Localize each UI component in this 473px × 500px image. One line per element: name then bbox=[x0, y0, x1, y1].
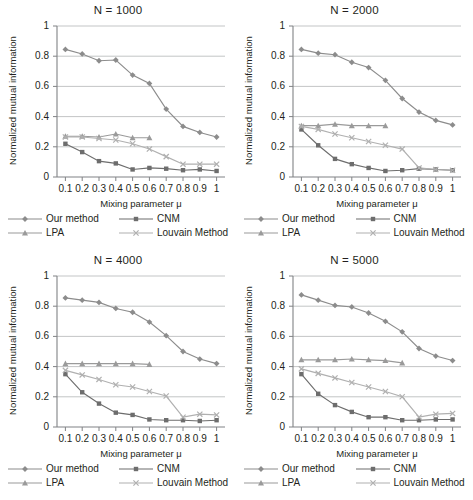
x-tick-label: 0.2 bbox=[75, 183, 89, 194]
series-marker-square bbox=[383, 169, 387, 173]
series-marker-square bbox=[198, 419, 202, 423]
legend-triangle-icon bbox=[8, 228, 42, 238]
legend-label: Louvain Method bbox=[394, 477, 465, 488]
series-marker-square bbox=[450, 417, 454, 421]
chart-legend: Our methodCNMLPALouvain Method bbox=[8, 213, 230, 238]
x-tick-label: 0.1 bbox=[294, 183, 308, 194]
series-marker-diamond bbox=[299, 47, 305, 53]
series-marker-diamond bbox=[197, 130, 203, 136]
series-marker-square bbox=[400, 418, 404, 422]
series-marker-square bbox=[114, 410, 118, 414]
legend-triangle-icon bbox=[244, 228, 278, 238]
y-tick-label: 0.2 bbox=[25, 142, 49, 152]
x-tick-label: 0.4 bbox=[345, 433, 359, 444]
legend-label: LPA bbox=[282, 227, 300, 238]
x-tick-label: 0.5 bbox=[362, 183, 376, 194]
y-tick-label: 0.2 bbox=[261, 392, 285, 402]
legend-item-lpa[interactable]: LPA bbox=[8, 227, 119, 238]
legend-item-lpa[interactable]: LPA bbox=[244, 227, 356, 238]
series-marker-diamond bbox=[214, 361, 220, 367]
x-tick-label: 0.6 bbox=[378, 433, 392, 444]
legend-cross-icon bbox=[356, 228, 390, 238]
y-tick-label: 1 bbox=[261, 21, 285, 31]
x-tick-label: 0.7 bbox=[159, 433, 173, 444]
legend-label: LPA bbox=[46, 477, 64, 488]
legend-item-louvain-method[interactable]: Louvain Method bbox=[356, 227, 468, 238]
legend-item-lpa[interactable]: LPA bbox=[8, 477, 119, 488]
chart-panel-2: N = 4000Normalized mutual information00.… bbox=[0, 250, 236, 500]
series-marker-square bbox=[383, 415, 387, 419]
series-line-louvain-method bbox=[301, 126, 452, 170]
series-marker-square bbox=[366, 415, 370, 419]
series-marker-diamond bbox=[79, 297, 85, 303]
legend-item-our-method[interactable]: Our method bbox=[8, 463, 119, 474]
legend-label: LPA bbox=[282, 477, 300, 488]
legend-item-louvain-method[interactable]: Louvain Method bbox=[119, 477, 230, 488]
series-marker-cross bbox=[164, 154, 169, 159]
series-marker-square bbox=[97, 159, 101, 163]
series-marker-square bbox=[130, 167, 134, 171]
legend-item-louvain-method[interactable]: Louvain Method bbox=[356, 477, 468, 488]
x-tick-label: 0.6 bbox=[142, 183, 156, 194]
legend-label: Our method bbox=[46, 213, 99, 224]
y-tick-label: 0.4 bbox=[261, 362, 285, 372]
legend-item-our-method[interactable]: Our method bbox=[8, 213, 119, 224]
series-marker-square bbox=[63, 142, 67, 146]
legend-item-our-method[interactable]: Our method bbox=[244, 463, 356, 474]
chart-panel-1: N = 2000Normalized mutual information00.… bbox=[236, 0, 473, 250]
series-marker-diamond bbox=[96, 300, 102, 306]
legend-item-cnm[interactable]: CNM bbox=[119, 213, 230, 224]
x-axis-label: Mixing parameter μ bbox=[293, 448, 461, 459]
x-tick-label: 0.5 bbox=[126, 183, 140, 194]
series-marker-square bbox=[80, 390, 84, 394]
figure-grid: N = 1000Normalized mutual information00.… bbox=[0, 0, 473, 500]
legend-item-lpa[interactable]: LPA bbox=[244, 477, 356, 488]
legend-cross-icon bbox=[356, 478, 390, 488]
series-marker-square bbox=[214, 169, 218, 173]
x-tick-label: 0.8 bbox=[176, 433, 190, 444]
legend-label: Our method bbox=[46, 463, 99, 474]
x-tick-label: 0.8 bbox=[176, 183, 190, 194]
legend-triangle-icon bbox=[244, 478, 278, 488]
legend-item-cnm[interactable]: CNM bbox=[119, 463, 230, 474]
series-line-our-method bbox=[65, 298, 216, 364]
series-marker-square bbox=[164, 166, 168, 170]
series-marker-diamond bbox=[450, 122, 456, 128]
series-marker-square bbox=[350, 410, 354, 414]
legend-cross-icon bbox=[119, 478, 153, 488]
series-marker-square bbox=[333, 403, 337, 407]
legend-item-louvain-method[interactable]: Louvain Method bbox=[119, 227, 230, 238]
legend-item-cnm[interactable]: CNM bbox=[356, 213, 468, 224]
x-tick-label: 1 bbox=[450, 183, 456, 194]
x-tick-label: 0.7 bbox=[395, 433, 409, 444]
legend-diamond-icon bbox=[244, 464, 278, 474]
x-tick-label: 0.3 bbox=[92, 433, 106, 444]
x-axis-label: Mixing parameter μ bbox=[57, 198, 225, 209]
series-marker-diamond bbox=[349, 304, 355, 310]
legend-item-cnm[interactable]: CNM bbox=[356, 463, 468, 474]
series-marker-diamond bbox=[450, 358, 456, 364]
legend-label: CNM bbox=[394, 213, 417, 224]
y-tick-label: 0.6 bbox=[25, 331, 49, 341]
y-tick-label: 0.8 bbox=[25, 51, 49, 61]
series-marker-square bbox=[181, 168, 185, 172]
series-marker-diamond bbox=[63, 295, 69, 301]
series-marker-diamond bbox=[130, 309, 136, 315]
legend-item-our-method[interactable]: Our method bbox=[244, 213, 356, 224]
series-marker-square bbox=[434, 417, 438, 421]
series-marker-diamond bbox=[383, 318, 389, 324]
x-tick-label: 0.3 bbox=[328, 183, 342, 194]
x-tick-label: 0.2 bbox=[311, 183, 325, 194]
series-marker-square bbox=[164, 418, 168, 422]
series-marker-diamond bbox=[197, 356, 203, 362]
x-tick-label: 1 bbox=[214, 433, 220, 444]
series-marker-square bbox=[198, 167, 202, 171]
series-line-cnm bbox=[65, 144, 216, 171]
y-tick-label: 1 bbox=[25, 21, 49, 31]
series-marker-square bbox=[299, 372, 303, 376]
series-marker-square bbox=[366, 166, 370, 170]
legend-diamond-icon bbox=[8, 214, 42, 224]
y-tick-label: 0.2 bbox=[25, 392, 49, 402]
series-marker-square bbox=[147, 166, 151, 170]
series-marker-square bbox=[350, 162, 354, 166]
